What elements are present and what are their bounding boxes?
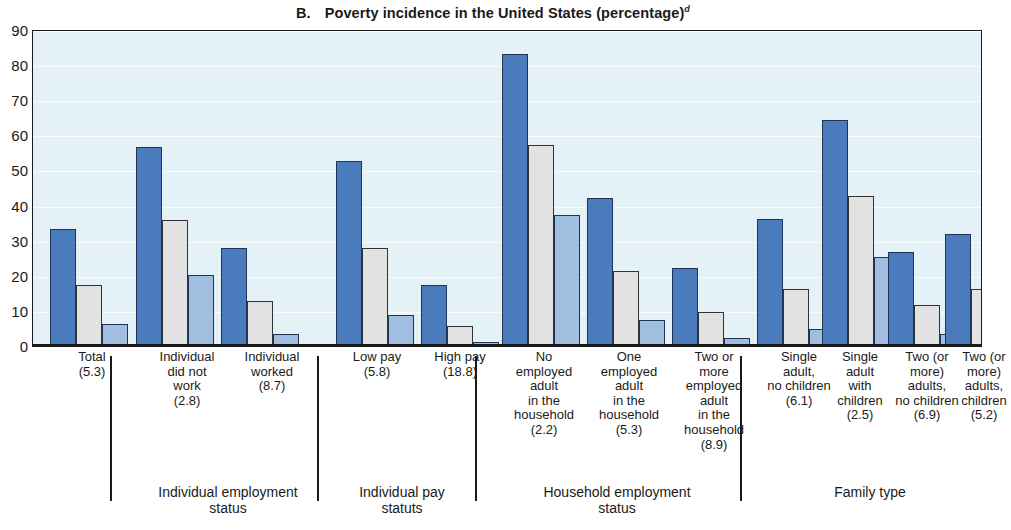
y-axis-tick-60: 60	[0, 128, 28, 143]
bar-g8-s0	[757, 219, 783, 345]
bar-g9-s1	[848, 196, 874, 345]
plot-area	[32, 30, 982, 346]
bar-g10-s0	[888, 252, 914, 345]
bar-g11-s0	[945, 234, 971, 345]
bar-g5-s0	[502, 54, 528, 345]
y-axis-tick-90: 90	[0, 23, 28, 38]
bar-g5-s2	[554, 215, 580, 345]
group-separator	[317, 356, 319, 501]
panel-letter: B.	[296, 5, 311, 21]
bar-g4-s1	[447, 326, 473, 345]
bar-g0-s1	[76, 285, 102, 345]
y-axis-tick-20: 20	[0, 268, 28, 283]
group-separator	[740, 356, 742, 501]
bar-g8-s1	[783, 289, 809, 345]
y-axis-tick-70: 70	[0, 93, 28, 108]
bar-g2-s0	[221, 248, 247, 345]
title-text: Poverty incidence in the United States (…	[325, 5, 685, 21]
bar-g0-s2	[102, 324, 128, 345]
bar-g6-s0	[587, 198, 613, 345]
bar-g7-s1	[698, 312, 724, 345]
bar-g3-s2	[388, 315, 414, 345]
bar-g1-s1	[162, 220, 188, 345]
bar-g5-s1	[528, 145, 554, 345]
group-separator	[110, 356, 112, 501]
group-separator	[475, 356, 477, 501]
chart-plot-wrapper: 9080706050403020100	[0, 30, 986, 350]
y-axis-tick-80: 80	[0, 58, 28, 73]
bar-g11-s1	[971, 289, 982, 345]
bar-g1-s2	[188, 275, 214, 345]
bars-layer	[33, 31, 981, 345]
bar-g6-s2	[639, 320, 665, 345]
bar-g3-s0	[336, 161, 362, 345]
title-footnote-marker: d	[684, 4, 690, 14]
bar-g10-s1	[914, 305, 940, 345]
group-title-3: Family type	[740, 484, 1000, 500]
y-axis-tick-0: 0	[0, 339, 28, 354]
page-title: B.Poverty incidence in the United States…	[0, 4, 986, 21]
bar-g4-s0	[421, 285, 447, 345]
group-title-2: Household employmentstatus	[487, 484, 747, 516]
bar-g3-s1	[362, 248, 388, 345]
bar-g9-s0	[822, 120, 848, 345]
bar-g2-s1	[247, 301, 273, 345]
y-axis-tick-40: 40	[0, 198, 28, 213]
group-title-line: status	[487, 500, 747, 516]
bar-g1-s0	[136, 147, 162, 345]
x-axis-baseline	[32, 344, 982, 347]
group-sections: Individual employmentstatusIndividual pa…	[32, 350, 982, 530]
bar-g0-s0	[50, 229, 76, 345]
group-title-line: Household employment	[487, 484, 747, 500]
bar-g7-s0	[672, 268, 698, 345]
y-axis-tick-30: 30	[0, 233, 28, 248]
y-axis: 9080706050403020100	[0, 30, 28, 346]
bar-g6-s1	[613, 271, 639, 345]
y-axis-tick-10: 10	[0, 303, 28, 318]
y-axis-tick-50: 50	[0, 163, 28, 178]
group-title-line: Family type	[740, 484, 1000, 500]
